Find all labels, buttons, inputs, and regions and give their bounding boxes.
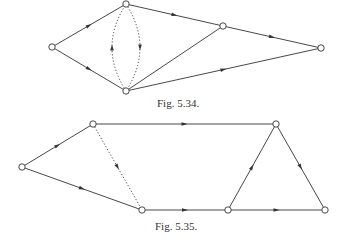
arrow-head-icon xyxy=(182,122,188,126)
arrow-head-icon xyxy=(171,13,177,17)
graph-node xyxy=(225,207,231,213)
graph-node xyxy=(90,121,96,127)
arrow-head-icon xyxy=(54,144,60,149)
arrow-head-icon xyxy=(114,164,119,170)
caption-fig-5-34: Fig. 5.34. xyxy=(157,97,199,109)
figure-5-35 xyxy=(19,121,328,213)
arrow-head-icon xyxy=(269,35,275,39)
arrow-head-icon xyxy=(297,164,302,170)
graph-node xyxy=(318,45,324,51)
graph-node xyxy=(123,1,129,7)
graph-diagrams xyxy=(0,0,347,244)
edge-dotted-curve xyxy=(126,4,140,91)
arrow-head-icon xyxy=(110,45,114,51)
graph-node xyxy=(273,121,279,127)
arrow-head-icon xyxy=(182,208,188,212)
graph-node xyxy=(19,164,25,170)
graph-node xyxy=(49,44,55,50)
arrow-head-icon xyxy=(86,24,92,29)
arrow-head-icon xyxy=(138,45,142,51)
edge xyxy=(126,26,223,91)
edge-dotted-curve xyxy=(112,4,126,91)
caption-fig-5-35: Fig. 5.35. xyxy=(155,220,197,232)
graph-node xyxy=(123,88,129,94)
arrow-head-icon xyxy=(249,164,253,170)
arrow-head-icon xyxy=(86,66,92,71)
graph-node xyxy=(322,207,328,213)
arrow-head-icon xyxy=(274,208,280,212)
graph-node xyxy=(220,23,226,29)
figure-5-34 xyxy=(49,1,324,94)
arrow-head-icon xyxy=(79,186,85,190)
graph-node xyxy=(139,207,145,213)
arrow-head-icon xyxy=(220,68,226,72)
